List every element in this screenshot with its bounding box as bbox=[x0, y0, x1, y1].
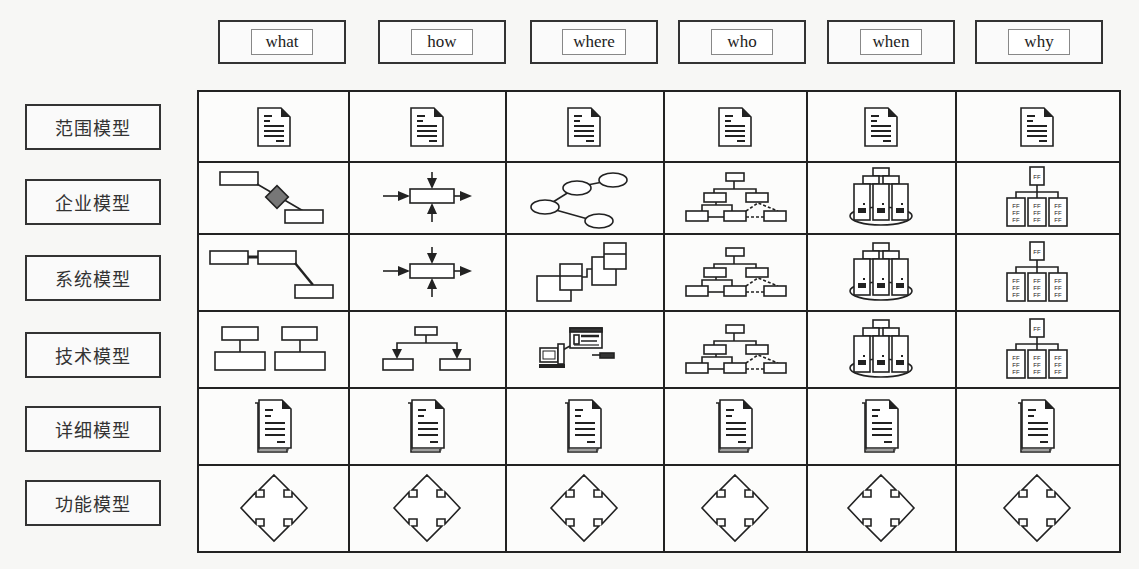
svg-text:FF: FF bbox=[1054, 285, 1062, 291]
svg-text:FF: FF bbox=[1012, 285, 1020, 291]
grid-cell bbox=[199, 464, 348, 551]
grid-cell bbox=[199, 387, 348, 464]
svg-text:FF: FF bbox=[1033, 210, 1041, 216]
entity-relationship-icon bbox=[219, 170, 329, 225]
four-way-arrows-icon bbox=[846, 473, 916, 543]
svg-text:FF: FF bbox=[1054, 292, 1062, 298]
grid-cell bbox=[663, 387, 806, 464]
svg-text:FF: FF bbox=[1033, 278, 1041, 284]
grid-cell: FFFFFFFFFFFFFFFFFFFF bbox=[955, 161, 1119, 233]
grid-cell bbox=[663, 92, 806, 161]
table-structure-icon bbox=[214, 325, 334, 373]
document-icon bbox=[410, 107, 444, 147]
four-way-arrows-icon bbox=[392, 473, 462, 543]
column-header-who: who bbox=[678, 20, 806, 64]
grid-cell bbox=[663, 161, 806, 233]
column-header-label: why bbox=[1008, 29, 1070, 55]
svg-text:FF: FF bbox=[1033, 355, 1041, 361]
grid-cell bbox=[348, 161, 505, 233]
column-header-when: when bbox=[827, 20, 955, 64]
svg-text:FF: FF bbox=[1033, 292, 1041, 298]
svg-text:FF: FF bbox=[1054, 217, 1062, 223]
svg-text:FF: FF bbox=[1012, 362, 1020, 368]
grid-cell bbox=[505, 310, 663, 387]
grid-cell bbox=[806, 92, 955, 161]
row-header-scope: 范围模型 bbox=[25, 104, 161, 150]
stacked-document-icon bbox=[715, 399, 755, 453]
distributed-blocks-icon bbox=[536, 241, 632, 303]
grid-cell: FFFFFFFFFFFFFFFFFFFF bbox=[955, 310, 1119, 387]
stacked-document-icon bbox=[254, 399, 294, 453]
svg-text:FF: FF bbox=[1054, 369, 1062, 375]
four-way-arrows-icon bbox=[549, 473, 619, 543]
grid-cell bbox=[955, 387, 1119, 464]
grid-cell bbox=[199, 310, 348, 387]
grid-cell bbox=[199, 161, 348, 233]
org-hierarchy-icon bbox=[680, 323, 790, 375]
grid-cell bbox=[663, 233, 806, 310]
row-header-enterprise: 企业模型 bbox=[25, 179, 161, 225]
svg-text:FF: FF bbox=[1054, 203, 1062, 209]
svg-text:FF: FF bbox=[1012, 292, 1020, 298]
column-header-label: when bbox=[860, 29, 922, 55]
svg-text:FF: FF bbox=[1033, 174, 1041, 180]
grid-cell bbox=[348, 387, 505, 464]
stacked-document-icon bbox=[861, 399, 901, 453]
server-cluster-icon bbox=[848, 241, 914, 303]
svg-text:FF: FF bbox=[1033, 362, 1041, 368]
server-cluster-icon bbox=[848, 318, 914, 380]
rule-tree-icon: FFFFFFFFFFFFFFFFFFFF bbox=[1004, 166, 1070, 228]
grid-cell bbox=[199, 233, 348, 310]
process-arrows-icon bbox=[382, 246, 472, 298]
column-header-what: what bbox=[218, 20, 346, 64]
row-header-detail: 详细模型 bbox=[25, 406, 161, 452]
grid-cell bbox=[955, 92, 1119, 161]
grid-cell bbox=[348, 92, 505, 161]
grid-cell bbox=[348, 233, 505, 310]
computer-terminal-icon bbox=[539, 326, 629, 372]
grid-cell bbox=[348, 464, 505, 551]
grid-cell bbox=[199, 92, 348, 161]
grid-cell bbox=[505, 92, 663, 161]
document-icon bbox=[257, 107, 291, 147]
column-header-label: who bbox=[711, 29, 773, 55]
document-icon bbox=[1020, 107, 1054, 147]
svg-text:FF: FF bbox=[1033, 217, 1041, 223]
grid-cell bbox=[505, 233, 663, 310]
four-way-arrows-icon bbox=[1002, 473, 1072, 543]
svg-text:FF: FF bbox=[1012, 278, 1020, 284]
svg-text:FF: FF bbox=[1054, 210, 1062, 216]
stacked-document-icon bbox=[1017, 399, 1057, 453]
grid-cell: FFFFFFFFFFFFFFFFFFFF bbox=[955, 233, 1119, 310]
column-header-label: how bbox=[411, 29, 473, 55]
process-arrows-icon bbox=[382, 171, 472, 223]
row-header-function: 功能模型 bbox=[25, 480, 161, 526]
rule-tree-icon: FFFFFFFFFFFFFFFFFFFF bbox=[1004, 241, 1070, 303]
column-header-label: what bbox=[251, 29, 313, 55]
grid-cell bbox=[505, 387, 663, 464]
document-icon bbox=[864, 107, 898, 147]
column-header-how: how bbox=[378, 20, 506, 64]
grid-cell bbox=[348, 310, 505, 387]
grid-cell bbox=[806, 387, 955, 464]
svg-text:FF: FF bbox=[1033, 326, 1041, 332]
svg-text:FF: FF bbox=[1012, 217, 1020, 223]
stacked-document-icon bbox=[407, 399, 447, 453]
four-way-arrows-icon bbox=[700, 473, 770, 543]
svg-text:FF: FF bbox=[1012, 369, 1020, 375]
network-nodes-icon bbox=[529, 169, 639, 225]
svg-text:FF: FF bbox=[1012, 203, 1020, 209]
document-icon bbox=[718, 107, 752, 147]
svg-text:FF: FF bbox=[1033, 249, 1041, 255]
org-hierarchy-icon bbox=[680, 246, 790, 298]
svg-text:FF: FF bbox=[1033, 369, 1041, 375]
grid-cell bbox=[663, 310, 806, 387]
svg-text:FF: FF bbox=[1012, 210, 1020, 216]
column-header-label: where bbox=[562, 29, 626, 55]
column-header-why: why bbox=[975, 20, 1103, 64]
linked-entities-icon bbox=[209, 243, 339, 301]
svg-text:FF: FF bbox=[1012, 355, 1020, 361]
svg-text:FF: FF bbox=[1054, 362, 1062, 368]
rule-tree-icon: FFFFFFFFFFFFFFFFFFFF bbox=[1004, 318, 1070, 380]
branching-flow-icon bbox=[381, 325, 473, 373]
